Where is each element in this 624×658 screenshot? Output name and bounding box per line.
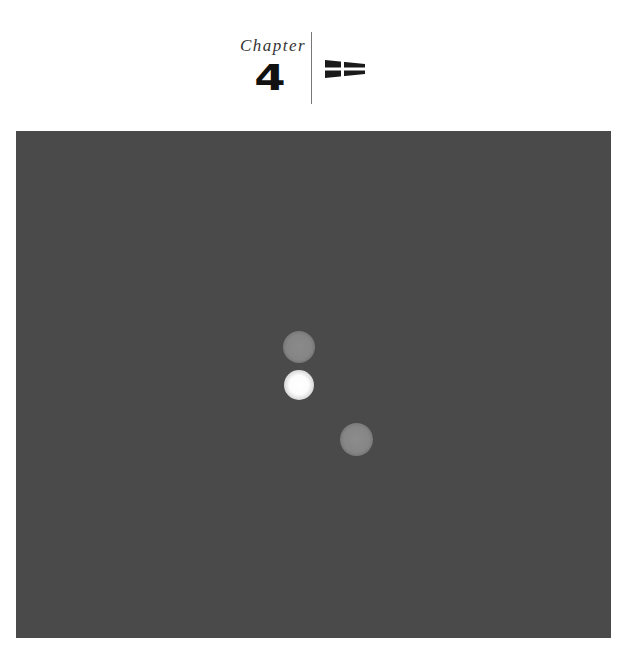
header-divider [311, 32, 312, 104]
chapter-figure [16, 131, 611, 638]
bright-white-spot [284, 370, 314, 400]
chapter-number: 4 [245, 58, 295, 98]
signal-flag-icon [325, 59, 365, 79]
upper-gray-spot [283, 331, 315, 363]
lower-gray-spot [340, 423, 373, 456]
chapter-label: Chapter [240, 36, 306, 56]
